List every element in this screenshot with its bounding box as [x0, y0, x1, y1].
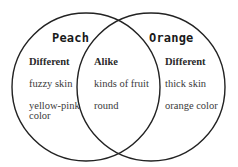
peach-item: yellow-pink color [29, 101, 80, 121]
orange-title: Orange [149, 31, 194, 45]
peach-item: fuzzy skin [29, 79, 72, 89]
peach-title: Peach [52, 31, 89, 45]
alike-item: round [94, 101, 119, 111]
peach-different-heading: Different [29, 56, 70, 67]
orange-item: thick skin [165, 79, 206, 89]
orange-item: orange color [165, 101, 218, 111]
alike-item: kinds of fruit [94, 79, 149, 89]
orange-different-heading: Different [165, 56, 206, 67]
alike-heading: Alike [94, 56, 118, 67]
